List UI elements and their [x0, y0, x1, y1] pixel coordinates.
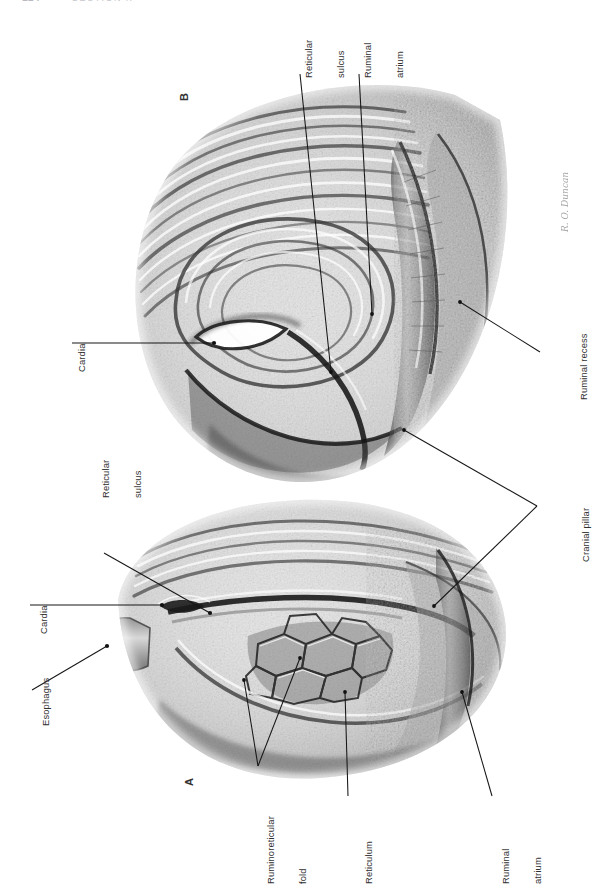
figure-a-artwork — [96, 480, 530, 800]
label-a-ruminal-atrium-line1: Ruminal — [501, 849, 512, 884]
label-cranial-pillar: Cranial pillar — [558, 508, 608, 562]
label-a-esophagus-line1: Esophagus — [40, 678, 51, 726]
figure-id-b: B — [178, 93, 190, 101]
label-cranial-pillar-line1: Cranial pillar — [580, 508, 591, 562]
label-a-ruminoreticular-fold: Ruminoreticular fold — [245, 816, 330, 884]
figure-b-artwork — [100, 60, 540, 520]
label-a-cardia: Cardia — [16, 605, 71, 634]
anatomy-plate: R. O. Duncan B A Reticular sulcus Rumina… — [0, 0, 608, 893]
label-a-ruminoreticular-fold-line1: Ruminoreticular — [266, 816, 277, 884]
label-b-ruminal-atrium-line2: atrium — [395, 43, 406, 78]
label-a-esophagus: Esophagus — [18, 678, 73, 726]
label-b-ruminal-atrium-line1: Ruminal — [363, 43, 374, 78]
label-b-ruminal-recess-line1: Ruminal recess — [578, 333, 589, 400]
label-a-ruminoreticular-fold-line2: fold — [298, 816, 309, 884]
label-a-reticular-sulcus-line2: sulcus — [133, 460, 144, 498]
label-a-cardia-line1: Cardia — [38, 605, 49, 634]
label-a-reticulum: Reticulum — [341, 841, 396, 884]
artist-signature: R. O. Duncan — [560, 172, 570, 232]
label-a-reticular-sulcus-line1: Reticular — [101, 460, 112, 498]
label-b-cardia: Cardia — [54, 343, 109, 372]
label-a-ruminal-atrium-line2: atrium — [533, 849, 544, 884]
label-b-ruminal-atrium: Ruminal atrium — [342, 43, 427, 78]
label-a-ruminal-atrium: Ruminal atrium — [480, 849, 565, 884]
label-a-reticulum-line1: Reticulum — [363, 841, 374, 884]
figure-id-a: A — [183, 778, 195, 786]
label-a-reticular-sulcus: Reticular sulcus — [80, 460, 165, 498]
label-b-cardia-line1: Cardia — [76, 343, 87, 372]
illustration-artwork — [0, 0, 608, 893]
label-b-ruminal-recess: Ruminal recess — [556, 333, 608, 400]
label-b-reticular-sulcus-line1: Reticular — [304, 40, 315, 78]
